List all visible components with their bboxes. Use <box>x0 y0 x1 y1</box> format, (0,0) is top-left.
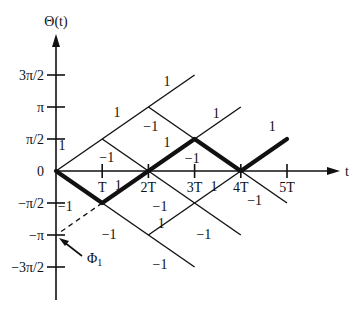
x-ticks: T2T3T4T5T <box>98 164 295 195</box>
y-tick-label: π <box>37 100 44 115</box>
branch-label: 1 <box>115 178 122 193</box>
y-tick-label: π/2 <box>26 132 44 147</box>
branch-label: 1 <box>213 106 220 121</box>
branch-label: −1 <box>58 199 73 214</box>
y-axis-label: Θ(t) <box>44 14 68 30</box>
x-axis-label: t <box>345 164 349 179</box>
x-tick-label: 3T <box>187 180 203 195</box>
y-tick-label: −π <box>29 228 44 243</box>
phi-arrow <box>64 242 82 256</box>
branch-label: 1 <box>163 74 170 89</box>
y-tick-label: −π/2 <box>18 196 44 211</box>
branch-label: −1 <box>152 257 167 272</box>
y-tick-label: 0 <box>37 164 44 179</box>
phi-symbol: Φ <box>87 251 97 266</box>
x-tick-label: 2T <box>141 180 157 195</box>
branch-label: −1 <box>152 199 167 214</box>
branch-label: 1 <box>59 138 66 153</box>
branch-label: −1 <box>143 119 158 134</box>
branch-label: 1 <box>158 216 165 231</box>
branch-label: −1 <box>247 193 262 208</box>
branch-label: −1 <box>102 227 117 242</box>
branch-label: −1 <box>196 227 211 242</box>
x-tick-label: T <box>98 180 107 195</box>
phi-subscript: 1 <box>97 257 102 268</box>
branch-label: 1 <box>269 119 276 134</box>
phi-annotation: Φ1 <box>59 238 102 268</box>
phase-trellis-diagram: Θ(t) t 3π/2ππ/20−π/2−π−3π/2 T2T3T4T5T 11… <box>0 0 363 315</box>
branch-label: −1 <box>99 150 114 165</box>
branch-label: −1 <box>185 151 200 166</box>
branch-label: 1 <box>113 105 120 120</box>
phi-label: Φ1 <box>87 251 102 268</box>
branch-label: 1 <box>163 135 170 150</box>
y-tick-label: −3π/2 <box>11 260 44 275</box>
x-tick-label: 5T <box>279 180 295 195</box>
trellis-branch-0 <box>56 75 195 171</box>
y-tick-label: 3π/2 <box>19 68 44 83</box>
x-axis-arrowhead <box>327 167 340 175</box>
y-axis-arrowhead <box>52 34 60 47</box>
branch-label: 1 <box>211 179 218 194</box>
